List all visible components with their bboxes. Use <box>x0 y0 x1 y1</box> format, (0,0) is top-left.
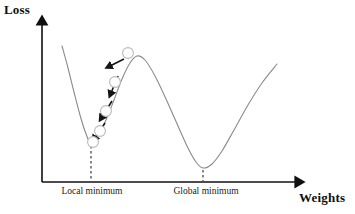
x-axis-title: Weights <box>299 190 345 206</box>
figure-canvas <box>0 0 355 214</box>
descent-ball-3 <box>101 106 112 117</box>
descent-balls-group <box>88 48 134 148</box>
global-minimum-label: Global minimum <box>163 186 249 196</box>
y-axis-title: Loss <box>4 2 30 18</box>
local-minimum-label: Local minimum <box>52 186 132 196</box>
descent-ball-4 <box>95 126 106 137</box>
minimum-droplines-group <box>91 146 203 181</box>
descent-arrow-1 <box>110 59 124 66</box>
axes-group <box>42 24 296 182</box>
descent-ball-2 <box>110 77 121 88</box>
loss-curve <box>62 46 277 168</box>
loss-curve-group <box>62 46 277 168</box>
descent-ball-5 <box>88 137 99 148</box>
loss-landscape-figure: Loss Weights Local minimum Global minimu… <box>0 0 355 214</box>
descent-ball-1 <box>123 48 134 59</box>
